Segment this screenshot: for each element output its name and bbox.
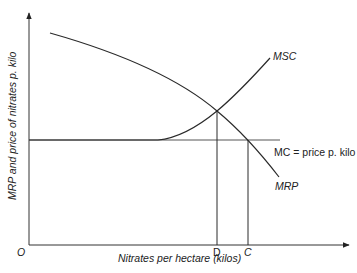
origin-label: O bbox=[17, 246, 25, 258]
diagram-canvas: MSC MC = price p. kilo MRP O D C Nitrate… bbox=[0, 0, 357, 273]
msc-curve bbox=[29, 58, 270, 140]
mrp-curve bbox=[50, 33, 279, 177]
mrp-label: MRP bbox=[275, 180, 298, 192]
msc-label: MSC bbox=[273, 50, 297, 62]
x-axis-label: Nitrates per hectare (kilos) bbox=[118, 252, 241, 264]
y-axis-label: MRP and price of nitrates p. kilo bbox=[6, 51, 18, 200]
mc-label: MC = price p. kilo bbox=[274, 146, 356, 158]
point-c-label: C bbox=[244, 246, 252, 258]
